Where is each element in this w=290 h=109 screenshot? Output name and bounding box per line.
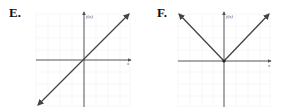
graph-f: f(x) x	[178, 12, 271, 107]
graph-e-xlabel: x	[126, 61, 130, 66]
graph-f-xlabel: x	[267, 63, 271, 68]
graph-f-ylabel: f(x)	[226, 14, 233, 19]
graph-f-vertex-dot	[222, 59, 225, 62]
graph-e: f(x) x	[36, 12, 131, 107]
graphs-canvas: f(x) x f(x) x	[0, 0, 290, 109]
graph-e-ylabel: f(x)	[86, 14, 93, 19]
